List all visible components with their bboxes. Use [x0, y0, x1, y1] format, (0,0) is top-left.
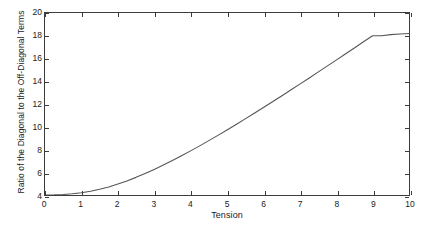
y-axis-tick [405, 174, 409, 175]
y-axis-tick-label: 4 [22, 191, 42, 201]
x-axis-tick [191, 13, 192, 17]
y-axis-tick-label: 10 [22, 122, 42, 132]
x-axis-tick-label: 3 [144, 199, 164, 209]
x-axis-tick [265, 13, 266, 17]
data-curve [45, 13, 409, 195]
x-axis-tick-label: 9 [363, 199, 383, 209]
y-axis-tick [405, 13, 409, 14]
y-axis-tick [45, 59, 49, 60]
x-axis-tick-label: 10 [400, 199, 420, 209]
y-axis-tick-label: 16 [22, 53, 42, 63]
y-axis-tick-label: 18 [22, 30, 42, 40]
x-axis-tick [45, 191, 46, 195]
y-axis-tick-label: 12 [22, 99, 42, 109]
x-axis-tick-label: 7 [290, 199, 310, 209]
y-axis-tick [405, 82, 409, 83]
y-axis-tick [405, 197, 409, 198]
x-axis-tick-label: 1 [71, 199, 91, 209]
x-axis-tick [338, 13, 339, 17]
y-axis-tick-label: 14 [22, 76, 42, 86]
x-axis-tick-label: 2 [107, 199, 127, 209]
x-axis-tick [374, 13, 375, 17]
y-axis-tick [45, 197, 49, 198]
y-axis-tick [405, 151, 409, 152]
x-axis-tick [411, 13, 412, 17]
y-axis-tick [405, 128, 409, 129]
y-axis-tick-label: 8 [22, 145, 42, 155]
x-axis-tick [265, 191, 266, 195]
x-axis-tick-label: 8 [327, 199, 347, 209]
x-axis-tick [155, 191, 156, 195]
y-axis-tick [405, 36, 409, 37]
y-axis-tick [405, 59, 409, 60]
y-axis-tick [405, 105, 409, 106]
x-axis-tick [338, 191, 339, 195]
x-axis-tick [118, 13, 119, 17]
y-axis-tick [45, 36, 49, 37]
x-axis-tick [191, 191, 192, 195]
x-axis-tick [228, 13, 229, 17]
x-axis-label: Tension [44, 210, 410, 220]
x-axis-tick [228, 191, 229, 195]
y-axis-tick [45, 105, 49, 106]
x-axis-tick [118, 191, 119, 195]
x-axis-tick-label: 4 [180, 199, 200, 209]
x-axis-tick [82, 191, 83, 195]
y-axis-tick [45, 13, 49, 14]
y-axis-tick-label: 6 [22, 168, 42, 178]
x-axis-tick [155, 13, 156, 17]
x-axis-tick [82, 13, 83, 17]
x-axis-tick [374, 191, 375, 195]
y-axis-tick [45, 128, 49, 129]
chart-figure: Ratio of the Diagonal to the Off-Diagona… [0, 0, 424, 232]
x-axis-tick-label: 5 [217, 199, 237, 209]
plot-area [44, 12, 410, 196]
x-axis-tick [411, 191, 412, 195]
y-axis-tick [45, 174, 49, 175]
y-axis-tick [45, 82, 49, 83]
x-axis-tick [301, 191, 302, 195]
x-axis-tick-label: 6 [254, 199, 274, 209]
x-axis-tick [301, 13, 302, 17]
y-axis-tick [45, 151, 49, 152]
y-axis-tick-label: 20 [22, 7, 42, 17]
